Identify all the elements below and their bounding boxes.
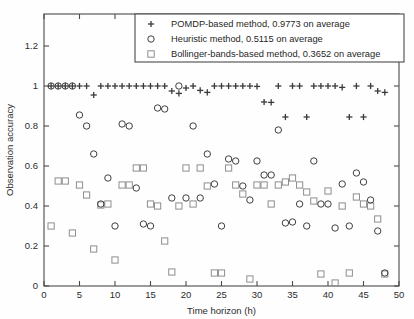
marker-square xyxy=(360,201,366,207)
x-tick-label: 5 xyxy=(77,289,82,300)
marker-circle xyxy=(105,175,111,181)
marker-square xyxy=(346,270,352,276)
marker-square xyxy=(254,182,260,188)
y-tick-label: 0.8 xyxy=(25,120,38,131)
marker-square xyxy=(226,165,232,171)
marker-circle xyxy=(282,220,288,226)
y-tick-label: 1 xyxy=(33,80,38,91)
marker-circle xyxy=(76,112,82,118)
marker-square xyxy=(332,280,338,286)
marker-square xyxy=(325,188,331,194)
marker-circle xyxy=(126,123,132,129)
x-tick-label: 35 xyxy=(287,289,298,300)
marker-circle xyxy=(353,170,359,176)
y-axis-title: Observation accuracy xyxy=(4,104,15,196)
marker-circle xyxy=(225,156,231,162)
marker-circle xyxy=(133,185,139,191)
y-tick-label: 0.2 xyxy=(25,240,38,251)
marker-circle xyxy=(154,105,160,111)
marker-square xyxy=(62,178,68,184)
marker-circle xyxy=(261,172,267,178)
marker-circle xyxy=(367,197,373,203)
marker-circle xyxy=(289,219,295,225)
marker-circle xyxy=(275,127,281,133)
marker-circle xyxy=(233,158,239,164)
marker-circle xyxy=(375,228,381,234)
marker-square xyxy=(169,269,175,275)
data-points-layer xyxy=(48,83,388,286)
x-axis-title: Time horizon (h) xyxy=(187,305,256,316)
legend-entry-circle[interactable]: Heuristic method, 0.5115 on average xyxy=(148,34,323,44)
chart-figure: 0510152025303540455000.20.40.60.811.2Tim… xyxy=(0,0,414,319)
marker-square xyxy=(261,182,267,188)
scatter-plot-svg: 0510152025303540455000.20.40.60.811.2Tim… xyxy=(0,0,414,319)
x-tick-label: 15 xyxy=(145,289,156,300)
marker-circle xyxy=(311,158,317,164)
marker-square xyxy=(311,198,317,204)
marker-circle xyxy=(176,83,182,89)
marker-square xyxy=(297,182,303,188)
marker-circle xyxy=(169,195,175,201)
y-tick-label: 0.4 xyxy=(25,200,38,211)
marker-circle xyxy=(360,179,366,185)
marker-circle xyxy=(119,121,125,127)
marker-square xyxy=(368,203,374,209)
marker-square xyxy=(55,178,61,184)
marker-square xyxy=(119,182,125,188)
marker-square xyxy=(112,257,118,263)
marker-square xyxy=(289,175,295,181)
marker-circle xyxy=(339,181,345,187)
legend[interactable]: POMDP-based method, 0.9773 on averageHeu… xyxy=(135,14,404,62)
marker-square xyxy=(91,246,97,252)
marker-circle xyxy=(247,197,253,203)
x-tick-label: 10 xyxy=(110,289,121,300)
marker-circle xyxy=(318,201,324,207)
marker-square xyxy=(84,192,90,198)
marker-square xyxy=(282,179,288,185)
marker-circle xyxy=(112,223,118,229)
marker-square xyxy=(155,203,161,209)
marker-square xyxy=(304,189,310,195)
marker-circle xyxy=(240,183,246,189)
marker-square xyxy=(176,203,182,209)
y-tick-label: 0 xyxy=(33,280,38,291)
marker-circle xyxy=(197,195,203,201)
marker-square xyxy=(275,182,281,188)
series-circle xyxy=(48,83,388,276)
legend-label: Heuristic method, 0.5115 on average xyxy=(171,34,323,44)
marker-square xyxy=(318,271,324,277)
marker-circle xyxy=(332,225,338,231)
marker-circle xyxy=(268,172,274,178)
marker-circle xyxy=(218,223,224,229)
marker-square xyxy=(197,165,203,171)
legend-entry-square[interactable]: Bollinger-bands-based method, 0.3652 on … xyxy=(148,49,381,59)
marker-square xyxy=(339,203,345,209)
legend-entry-plus[interactable]: POMDP-based method, 0.9773 on average xyxy=(148,19,350,29)
marker-square xyxy=(204,183,210,189)
marker-circle xyxy=(254,158,260,164)
marker-square xyxy=(126,182,132,188)
marker-circle xyxy=(296,201,302,207)
marker-square xyxy=(76,182,82,188)
marker-square xyxy=(211,270,217,276)
marker-circle xyxy=(346,223,352,229)
marker-circle xyxy=(140,221,146,227)
x-tick-label: 30 xyxy=(252,289,263,300)
marker-square xyxy=(69,230,75,236)
marker-square xyxy=(218,270,224,276)
marker-square xyxy=(247,276,253,282)
x-tick-label: 25 xyxy=(216,289,227,300)
marker-square xyxy=(162,238,168,244)
marker-square xyxy=(147,201,153,207)
marker-square xyxy=(268,201,274,207)
marker-square xyxy=(48,223,54,229)
marker-square xyxy=(133,165,139,171)
x-tick-label: 0 xyxy=(41,289,46,300)
marker-circle xyxy=(190,123,196,129)
marker-circle xyxy=(83,123,89,129)
marker-square xyxy=(105,201,111,207)
marker-square xyxy=(190,201,196,207)
marker-circle xyxy=(183,195,189,201)
marker-circle xyxy=(147,223,153,229)
marker-square xyxy=(233,182,239,188)
